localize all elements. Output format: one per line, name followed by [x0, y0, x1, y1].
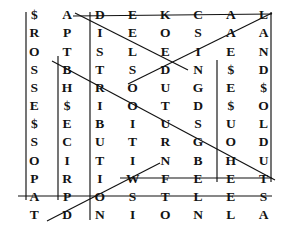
grid-cell-r11-c1[interactable]: A [18, 188, 51, 206]
grid-cell-r12-c6[interactable]: N [182, 206, 215, 224]
grid-cell-r2-c8[interactable]: A [247, 24, 280, 42]
grid-cell-r6-c5[interactable]: T [149, 97, 182, 115]
grid-cell-r7-c2[interactable]: E [51, 115, 84, 133]
grid-cell-r7-c4[interactable]: I [116, 115, 149, 133]
grid-cell-r4-c8[interactable]: D [247, 60, 280, 78]
grid-cell-r11-c2[interactable]: P [51, 188, 84, 206]
grid-cell-r12-c5[interactable]: O [149, 206, 182, 224]
grid-cell-r6-c8[interactable]: O [247, 97, 280, 115]
grid-cell-r9-c2[interactable]: I [51, 151, 84, 169]
grid-cell-r2-c1[interactable]: R [18, 24, 51, 42]
grid-cell-r2-c3[interactable]: I [84, 24, 117, 42]
grid-cell-r1-c5[interactable]: K [149, 6, 182, 24]
grid-cell-r8-c8[interactable]: D [247, 133, 280, 151]
grid-cell-r9-c6[interactable]: B [182, 151, 215, 169]
grid-cell-r5-c2[interactable]: H [51, 79, 84, 97]
grid-cell-r10-c8[interactable]: T [247, 169, 280, 187]
grid-cell-r4-c5[interactable]: D [149, 60, 182, 78]
grid-cell-r6-c3[interactable]: I [84, 97, 117, 115]
grid-cell-r5-c1[interactable]: S [18, 79, 51, 97]
grid-cell-r3-c3[interactable]: S [84, 42, 117, 60]
grid-cell-r6-c4[interactable]: O [116, 97, 149, 115]
grid-cell-r4-c7[interactable]: $ [215, 60, 248, 78]
grid-cell-r5-c5[interactable]: U [149, 79, 182, 97]
grid-cell-r1-c4[interactable]: E [116, 6, 149, 24]
grid-cell-r11-c3[interactable]: O [84, 188, 117, 206]
grid-cell-r3-c7[interactable]: E [215, 42, 248, 60]
grid-cell-r8-c5[interactable]: R [149, 133, 182, 151]
grid-cell-r1-c8[interactable]: L [247, 6, 280, 24]
grid-cell-r11-c5[interactable]: T [149, 188, 182, 206]
grid-cell-r3-c1[interactable]: O [18, 42, 51, 60]
grid-cell-r4-c6[interactable]: N [182, 60, 215, 78]
grid-cell-r1-c1[interactable]: $ [18, 6, 51, 24]
letter-grid: $ADEKCALRPIEOSAAOTSLEIENSBTSDN$DSHROUGE$… [18, 6, 280, 224]
grid-cell-r5-c4[interactable]: O [116, 79, 149, 97]
grid-cell-r12-c1[interactable]: T [18, 206, 51, 224]
grid-cell-r6-c2[interactable]: $ [51, 97, 84, 115]
grid-cell-r8-c2[interactable]: C [51, 133, 84, 151]
grid-cell-r7-c7[interactable]: U [215, 115, 248, 133]
grid-cell-r11-c6[interactable]: L [182, 188, 215, 206]
grid-cell-r6-c7[interactable]: $ [215, 97, 248, 115]
grid-cell-r12-c7[interactable]: L [215, 206, 248, 224]
grid-cell-r2-c7[interactable]: A [215, 24, 248, 42]
grid-cell-r3-c6[interactable]: I [182, 42, 215, 60]
grid-cell-r4-c1[interactable]: S [18, 60, 51, 78]
grid-cell-r7-c5[interactable]: U [149, 115, 182, 133]
grid-cell-r9-c5[interactable]: N [149, 151, 182, 169]
grid-cell-r1-c7[interactable]: A [215, 6, 248, 24]
grid-cell-r11-c4[interactable]: S [116, 188, 149, 206]
grid-cell-r10-c2[interactable]: R [51, 169, 84, 187]
grid-cell-r4-c3[interactable]: T [84, 60, 117, 78]
grid-cell-r3-c5[interactable]: E [149, 42, 182, 60]
grid-cell-r2-c6[interactable]: S [182, 24, 215, 42]
grid-cell-r10-c3[interactable]: I [84, 169, 117, 187]
grid-cell-r7-c1[interactable]: $ [18, 115, 51, 133]
grid-cell-r12-c3[interactable]: N [84, 206, 117, 224]
grid-cell-r5-c3[interactable]: R [84, 79, 117, 97]
grid-cell-r1-c3[interactable]: D [84, 6, 117, 24]
grid-cell-r9-c3[interactable]: T [84, 151, 117, 169]
grid-cell-r3-c4[interactable]: L [116, 42, 149, 60]
grid-cell-r10-c6[interactable]: E [182, 169, 215, 187]
grid-cell-r2-c5[interactable]: O [149, 24, 182, 42]
grid-cell-r8-c7[interactable]: O [215, 133, 248, 151]
grid-cell-r11-c8[interactable]: S [247, 188, 280, 206]
grid-cell-r3-c2[interactable]: T [51, 42, 84, 60]
grid-cell-r2-c4[interactable]: E [116, 24, 149, 42]
grid-cell-r7-c6[interactable]: S [182, 115, 215, 133]
grid-cell-r8-c1[interactable]: S [18, 133, 51, 151]
grid-cell-r6-c1[interactable]: E [18, 97, 51, 115]
grid-cell-r5-c8[interactable]: $ [247, 79, 280, 97]
grid-cell-r2-c2[interactable]: P [51, 24, 84, 42]
grid-cell-r9-c1[interactable]: O [18, 151, 51, 169]
grid-cell-r10-c1[interactable]: P [18, 169, 51, 187]
word-search-stage: $ADEKCALRPIEOSAAOTSLEIENSBTSDN$DSHROUGE$… [0, 0, 295, 229]
grid-cell-r4-c4[interactable]: S [116, 60, 149, 78]
grid-cell-r5-c7[interactable]: E [215, 79, 248, 97]
grid-cell-r1-c6[interactable]: C [182, 6, 215, 24]
grid-cell-r12-c8[interactable]: A [247, 206, 280, 224]
grid-cell-r6-c6[interactable]: D [182, 97, 215, 115]
grid-cell-r5-c6[interactable]: G [182, 79, 215, 97]
grid-cell-r4-c2[interactable]: B [51, 60, 84, 78]
grid-cell-r7-c8[interactable]: L [247, 115, 280, 133]
grid-cell-r7-c3[interactable]: B [84, 115, 117, 133]
grid-cell-r8-c3[interactable]: U [84, 133, 117, 151]
grid-cell-r12-c2[interactable]: D [51, 206, 84, 224]
grid-cell-r3-c8[interactable]: N [247, 42, 280, 60]
grid-cell-r9-c7[interactable]: H [215, 151, 248, 169]
grid-cell-r10-c4[interactable]: W [116, 169, 149, 187]
grid-cell-r10-c5[interactable]: F [149, 169, 182, 187]
grid-cell-r10-c7[interactable]: E [215, 169, 248, 187]
grid-cell-r8-c4[interactable]: T [116, 133, 149, 151]
grid-cell-r9-c8[interactable]: U [247, 151, 280, 169]
grid-cell-r12-c4[interactable]: I [116, 206, 149, 224]
grid-cell-r8-c6[interactable]: G [182, 133, 215, 151]
grid-cell-r11-c7[interactable]: E [215, 188, 248, 206]
grid-cell-r9-c4[interactable]: I [116, 151, 149, 169]
grid-cell-r1-c2[interactable]: A [51, 6, 84, 24]
